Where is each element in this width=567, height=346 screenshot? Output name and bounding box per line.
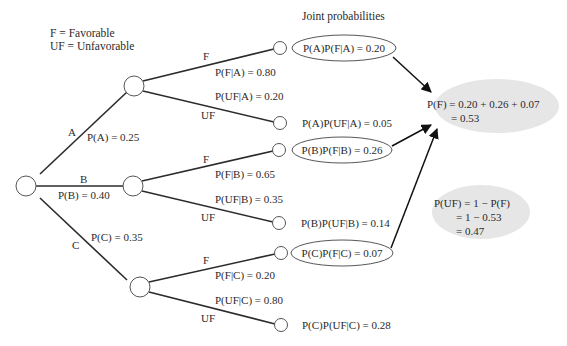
sub-label-A-F: F (203, 50, 209, 62)
leaf-B-F (273, 144, 286, 157)
arrow-B-F-to-PF (392, 125, 431, 146)
sub-prob-B-UF: P(UF|B) = 0.35 (215, 193, 283, 206)
joint-C-UF: P(C)P(UF|C) = 0.28 (302, 319, 391, 332)
branch-label-C: C (72, 239, 79, 251)
sub-prob-C-F: P(F|C) = 0.20 (215, 269, 276, 282)
joint-B-F: P(B)P(F|B) = 0.26 (302, 144, 383, 157)
leaf-A-F (274, 42, 287, 55)
sub-label-B-UF: UF (201, 211, 215, 223)
node-A (124, 76, 144, 96)
result-UF-line3: = 0.47 (456, 225, 485, 237)
probability-tree-diagram: F = Favorable UF = Unfavorable Joint pro… (0, 0, 567, 346)
sub-prob-C-UF: P(UF|C) = 0.80 (215, 294, 283, 307)
legend-favorable: F = Favorable (50, 27, 115, 39)
leaf-A-UF (274, 117, 287, 130)
sub-label-B-F: F (203, 153, 209, 165)
branch-prob-C: P(C) = 0.35 (91, 231, 143, 244)
sub-prob-B-F: P(F|B) = 0.65 (215, 168, 276, 181)
sub-label-C-UF: UF (201, 312, 215, 324)
branch-prob-B: P(B) = 0.40 (58, 189, 110, 202)
sub-label-A-UF: UF (201, 109, 215, 121)
joint-A-F: P(A)P(F|A) = 0.20 (303, 42, 386, 55)
joint-B-UF: P(B)P(UF|B) = 0.14 (301, 217, 390, 230)
branch-label-B: B (80, 173, 87, 185)
arrow-C-F-to-PF (391, 129, 437, 248)
leaf-C-UF (275, 319, 288, 332)
root-node (16, 176, 36, 196)
result-F-line2: = 0.53 (451, 112, 480, 124)
sub-prob-A-UF: P(UF|A) = 0.20 (215, 90, 284, 103)
node-B (123, 176, 143, 196)
result-UF-line2: = 1 − 0.53 (456, 211, 502, 223)
leaf-C-F (275, 247, 288, 260)
legend-unfavorable: UF = Unfavorable (50, 40, 134, 52)
branch-prob-A: P(A) = 0.25 (87, 131, 140, 144)
joint-probabilities-title: Joint probabilities (302, 10, 385, 23)
joint-A-UF: P(A)P(UF|A) = 0.05 (302, 117, 392, 130)
joint-C-F: P(C)P(F|C) = 0.07 (302, 247, 383, 260)
sub-prob-A-F: P(F|A) = 0.80 (215, 66, 276, 79)
result-UF-line1: P(UF) = 1 − P(F) (434, 197, 510, 210)
branch-label-A: A (68, 126, 76, 138)
arrow-A-F-to-PF (393, 57, 431, 92)
result-F-line1: P(F) = 0.20 + 0.26 + 0.07 (427, 98, 540, 111)
leaf-B-UF (273, 217, 286, 230)
node-C (130, 277, 150, 297)
sub-label-C-F: F (203, 254, 209, 266)
